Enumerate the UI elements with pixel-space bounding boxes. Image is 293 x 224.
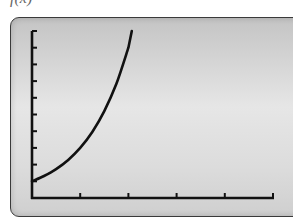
function-plot [0, 0, 293, 224]
axes [31, 31, 274, 199]
function-curve [32, 31, 132, 181]
